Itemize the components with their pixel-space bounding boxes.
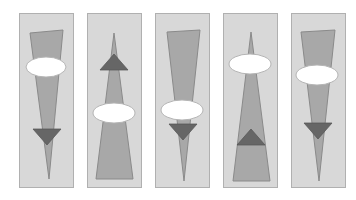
panel-graphic-2 bbox=[87, 13, 142, 188]
figure-panel bbox=[223, 13, 278, 188]
figure-panel bbox=[155, 13, 210, 188]
panel-graphic-3 bbox=[155, 13, 210, 188]
figure-panel bbox=[291, 13, 346, 188]
figure-panel bbox=[87, 13, 142, 188]
ellipse-marker bbox=[26, 57, 66, 77]
ellipse-marker bbox=[229, 54, 271, 74]
panel-graphic-5 bbox=[291, 13, 346, 188]
ellipse-marker bbox=[161, 100, 203, 120]
panel-graphic-4 bbox=[223, 13, 278, 188]
figure-panel bbox=[19, 13, 74, 188]
panel-graphic-1 bbox=[19, 13, 74, 188]
ellipse-marker bbox=[296, 65, 338, 85]
diagram-canvas bbox=[0, 0, 356, 200]
ellipse-marker bbox=[93, 103, 135, 123]
